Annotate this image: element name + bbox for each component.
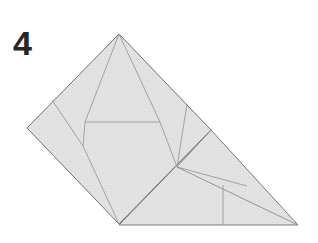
origami-diagram-svg [0,0,318,243]
step-number-label: 4 [13,26,31,60]
origami-diagram-figure: 4 [0,0,318,243]
